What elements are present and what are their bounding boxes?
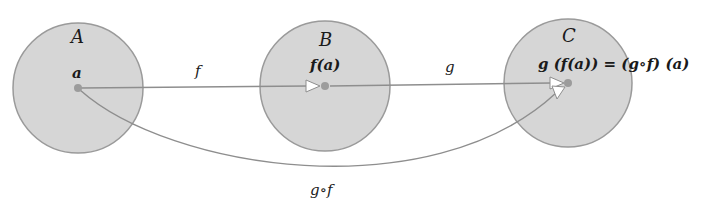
set-a-label: A	[69, 26, 84, 47]
mapping-gf-label: g∘f	[310, 181, 335, 199]
element-fa-label: f(a)	[309, 56, 340, 74]
element-gfa-dot	[564, 79, 572, 87]
set-b-label: B	[318, 29, 332, 50]
element-a-label: a	[72, 64, 82, 82]
mapping-g-label: g	[445, 58, 455, 76]
element-gfa-label: g (f(a)) = (g∘f) (a)	[538, 55, 689, 73]
element-fa-dot	[321, 82, 329, 90]
mapping-f-label: f	[194, 62, 203, 80]
set-c-label: C	[562, 25, 576, 46]
composition-diagram: A B C a f(a) g (f(a)) = (g∘f) (a) f g g∘…	[0, 0, 704, 206]
element-a-dot	[74, 84, 82, 92]
